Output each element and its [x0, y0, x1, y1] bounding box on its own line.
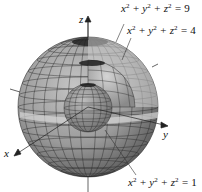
x-axis-label: x	[4, 148, 9, 159]
middle-sphere-equation: x2 + y2 + z2 = 4	[127, 25, 196, 36]
inner-sphere-equation: x2 + y2 + z2 = 1	[128, 177, 197, 188]
x-axis-arrow-icon	[14, 149, 21, 156]
y-axis-label: y	[163, 129, 168, 140]
outer-sphere-equation: x2 + y2 + z2 = 9	[121, 3, 190, 14]
z-axis-label: z	[79, 14, 83, 25]
z-axis-arrow-icon	[85, 16, 91, 22]
